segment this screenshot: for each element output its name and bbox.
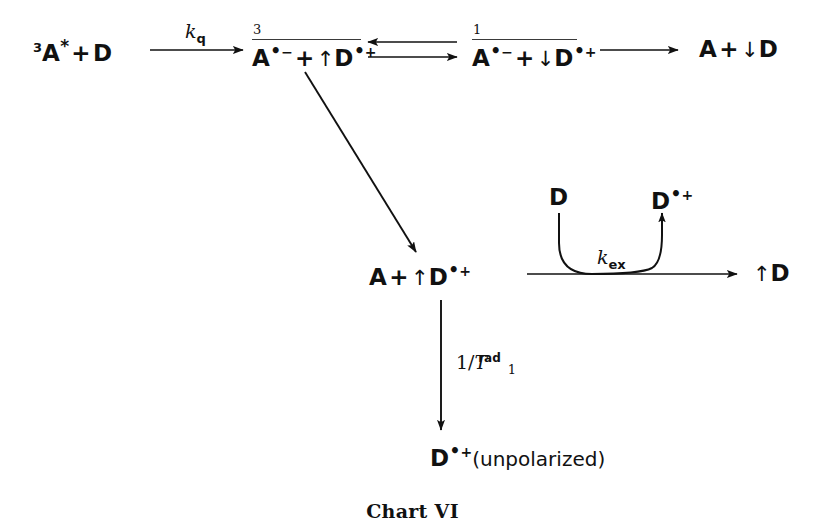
rate-label-quenching: kq xyxy=(185,22,206,45)
singlet-pair-formula: A•−+↓D•+ xyxy=(472,40,597,70)
reactants-excited-mark: * xyxy=(60,36,69,56)
singlet-cation-radical-dot: • xyxy=(574,41,585,61)
reactants-acceptor: A xyxy=(42,40,60,66)
triplet-anion: A xyxy=(252,45,270,71)
singlet-cation-charge: + xyxy=(585,44,597,60)
singlet-anion-charge: − xyxy=(501,44,513,60)
rate-label-exchange: kex xyxy=(597,248,626,271)
species-escape-products: A+↑D•+ xyxy=(369,262,471,289)
escape-cation: D xyxy=(429,264,449,290)
singlet-anion-radical-dot: • xyxy=(490,41,501,61)
singlet-spin-arrow: ↓ xyxy=(537,47,555,71)
relaxation-superscript: rad xyxy=(478,351,501,365)
relaxation-prefix: 1/ xyxy=(456,351,475,373)
triplet-spin-arrow: ↑ xyxy=(317,47,335,71)
recombination-acceptor: A xyxy=(699,36,717,62)
polarized-donor-symbol: D xyxy=(771,260,791,286)
rate-label-relaxation: 1/Trad1 xyxy=(456,352,518,376)
kq-symbol: k xyxy=(185,20,197,42)
exchange-product-radical-dot: • xyxy=(671,184,682,204)
recombination-donor: D xyxy=(759,36,779,62)
triplet-operator: + xyxy=(293,45,317,71)
figure-caption: Chart VI xyxy=(0,500,825,522)
escape-diagonal-arrow xyxy=(305,72,416,252)
relaxation-subscript: 1 xyxy=(508,362,516,377)
singlet-multiplicity: 1 xyxy=(473,23,481,36)
recombination-operator: + xyxy=(717,36,741,62)
triplet-multiplicity: 3 xyxy=(253,23,261,36)
escape-acceptor: A xyxy=(369,264,387,290)
species-triplet-radical-pair: 3 A•−+↑D•+ xyxy=(252,40,377,70)
relaxed-product-note: (unpolarized) xyxy=(472,447,605,471)
species-relaxed-product: D•+(unpolarized) xyxy=(430,443,605,470)
triplet-cation-radical-dot: • xyxy=(354,41,365,61)
chart-vi-reaction-scheme: 3A*+D 3 A•−+↑D•+ 1 A•−+↓D•+ A+↓D A+↑D•+ … xyxy=(0,0,825,530)
singlet-anion: A xyxy=(472,45,490,71)
triplet-cation: D xyxy=(334,45,354,71)
reactants-operator: + xyxy=(69,40,93,66)
species-exchange-product-cation: D•+ xyxy=(651,186,693,213)
reactants-multiplicity: 3 xyxy=(33,40,42,55)
relaxed-product-cation: D xyxy=(430,445,450,471)
kex-symbol: k xyxy=(597,246,609,268)
triplet-cation-charge: + xyxy=(365,44,377,60)
singlet-cation: D xyxy=(554,45,574,71)
kq-subscript: q xyxy=(197,31,206,46)
singlet-operator: + xyxy=(513,45,537,71)
species-reactants: 3A*+D xyxy=(33,38,113,65)
exchange-product-charge: + xyxy=(681,187,693,203)
recombination-spin-arrow: ↓ xyxy=(741,38,759,62)
escape-cation-radical-dot: • xyxy=(448,260,459,280)
escape-operator: + xyxy=(387,264,411,290)
triplet-pair-formula: A•−+↑D•+ xyxy=(252,40,377,70)
escape-cation-charge: + xyxy=(459,263,471,279)
species-singlet-radical-pair: 1 A•−+↓D•+ xyxy=(472,40,597,70)
species-polarized-donor: ↑D xyxy=(753,262,790,285)
escape-spin-arrow: ↑ xyxy=(411,266,429,290)
triplet-anion-radical-dot: • xyxy=(270,41,281,61)
reactants-donor: D xyxy=(93,40,113,66)
exchange-product-cation-symbol: D xyxy=(651,188,671,214)
relaxed-product-charge: + xyxy=(460,444,472,460)
species-exchange-reactant-donor: D xyxy=(549,186,569,209)
polarized-donor-spin-arrow: ↑ xyxy=(753,262,771,286)
kex-subscript: ex xyxy=(609,257,626,272)
relaxed-product-radical-dot: • xyxy=(450,441,461,461)
exchange-reactant-donor-symbol: D xyxy=(549,184,569,210)
species-recombination-products: A+↓D xyxy=(699,38,778,61)
triplet-anion-charge: − xyxy=(281,44,293,60)
